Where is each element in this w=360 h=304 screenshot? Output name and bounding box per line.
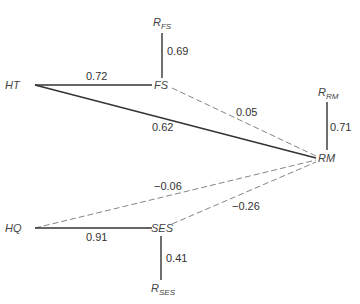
coef-rfs-fs: 0.69: [167, 45, 188, 57]
path-ses-rm: [172, 162, 316, 224]
node-r-rm: RRM: [318, 86, 339, 101]
path-ht-rm: [35, 85, 316, 158]
coef-hq-ses: 0.91: [86, 231, 107, 243]
coef-rrm-rm: 0.71: [330, 121, 351, 133]
path-hq-rm: [35, 160, 316, 228]
node-r-fs: RFS: [153, 16, 172, 31]
node-fs: FS: [154, 79, 169, 91]
node-hq: HQ: [5, 222, 22, 234]
coef-hq-rm: −0.06: [154, 180, 182, 192]
coef-ses-rm: −0.26: [232, 200, 260, 212]
path-diagram: HT FS RM HQ SES RFS RRM RSES 0.72 0.62 0…: [0, 0, 360, 304]
node-r-ses: RSES: [151, 282, 176, 297]
coef-ht-rm: 0.62: [152, 121, 173, 133]
path-fs-rm: [172, 88, 316, 156]
coef-rses-ses: 0.41: [166, 252, 187, 264]
coef-ht-fs: 0.72: [86, 70, 107, 82]
node-rm: RM: [318, 152, 336, 164]
node-ses: SES: [151, 222, 174, 234]
coef-fs-rm: 0.05: [236, 106, 257, 118]
node-ht: HT: [5, 79, 21, 91]
